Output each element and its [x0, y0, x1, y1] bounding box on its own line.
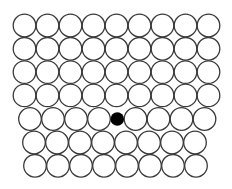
lattice-circle [93, 155, 116, 178]
lattice-circle [151, 38, 174, 61]
lattice-circle [59, 14, 82, 37]
lattice-circle [24, 155, 47, 178]
lattice-circle [185, 155, 208, 178]
lattice-circle [105, 14, 128, 37]
lattice-circle [36, 38, 59, 61]
lattice-circle [13, 38, 36, 61]
lattice-circle [193, 108, 216, 131]
lattice-circle [174, 38, 197, 61]
lattice-circle [170, 108, 193, 131]
lattice-circle [105, 38, 128, 61]
lattice-circle [23, 131, 46, 154]
lattice-circle [46, 131, 69, 154]
lattice-circle [138, 131, 161, 154]
lattice-circle [151, 84, 174, 107]
lattice-circle [184, 131, 207, 154]
lattice-circle [13, 61, 36, 84]
lattice-circle [42, 108, 65, 131]
lattice-circle [82, 38, 105, 61]
lattice-circle [13, 14, 36, 37]
lattice-circle [139, 155, 162, 178]
lattice-circle [174, 61, 197, 84]
circle-lattice [13, 14, 220, 177]
lattice-circle [92, 131, 115, 154]
lattice-circle [105, 61, 128, 84]
lattice-circle [162, 155, 185, 178]
lattice-circle [197, 84, 220, 107]
lattice-circle [128, 61, 151, 84]
lattice-circle [47, 155, 70, 178]
lattice-circle [36, 61, 59, 84]
point-defect-dot [111, 112, 125, 126]
lattice-circle [128, 38, 151, 61]
lattice-circle [59, 61, 82, 84]
lattice-circle [13, 84, 36, 107]
lattice-circle [115, 131, 138, 154]
lattice-circle [174, 84, 197, 107]
lattice-circle [65, 108, 88, 131]
lattice-circle [161, 131, 184, 154]
lattice-circle [197, 14, 220, 37]
lattice-circle [124, 108, 147, 131]
lattice-circle [147, 108, 170, 131]
lattice-circle [197, 38, 220, 61]
lattice-circle [82, 84, 105, 107]
lattice-circle [36, 84, 59, 107]
lattice-circle [197, 61, 220, 84]
lattice-circle [59, 38, 82, 61]
lattice-circle [88, 108, 111, 131]
lattice-circle [174, 14, 197, 37]
lattice-circle [82, 61, 105, 84]
lattice-circle [116, 155, 139, 178]
lattice-circle [128, 84, 151, 107]
lattice-circle [36, 14, 59, 37]
lattice-circle [19, 108, 42, 131]
lattice-circle [82, 14, 105, 37]
lattice-circle [105, 84, 128, 107]
lattice-circle [70, 155, 93, 178]
close-packed-circles-diagram [0, 0, 232, 189]
lattice-circle [59, 84, 82, 107]
lattice-circle [128, 14, 151, 37]
lattice-circle [151, 61, 174, 84]
lattice-circle [151, 14, 174, 37]
lattice-circle [69, 131, 92, 154]
